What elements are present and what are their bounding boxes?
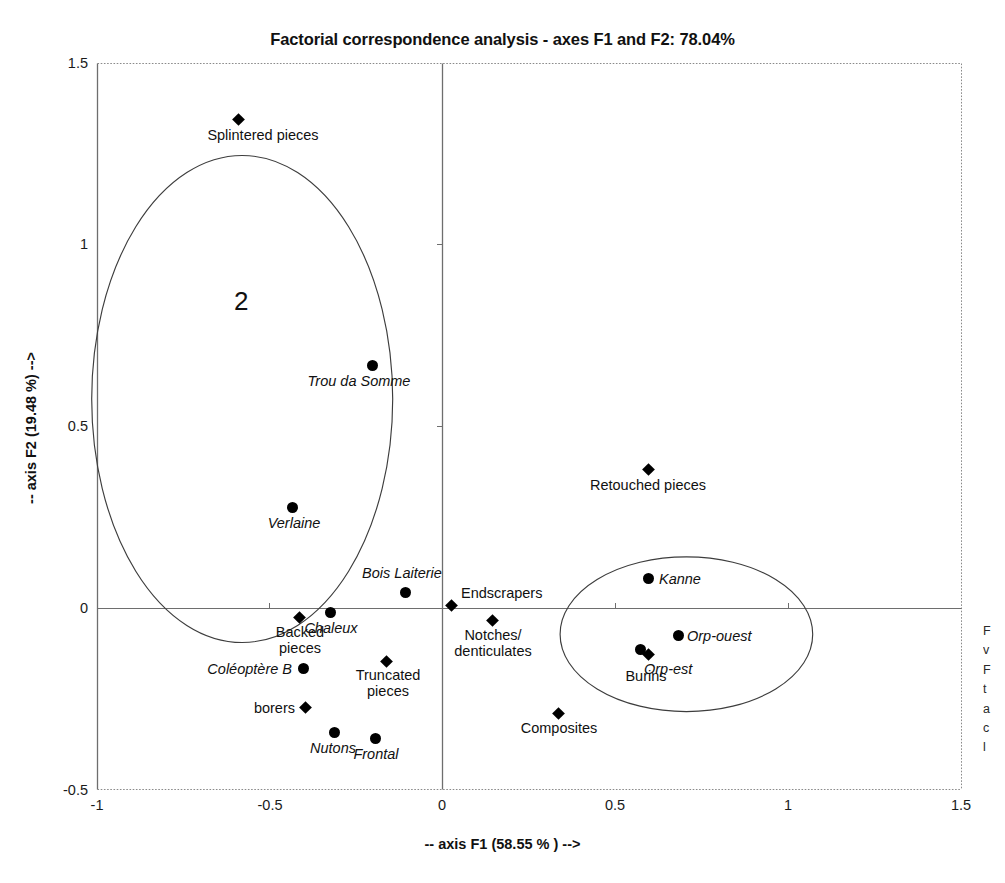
label-bois-laiterie: Bois Laiterie xyxy=(362,565,442,581)
marker-coleoptere-b[interactable] xyxy=(298,663,309,674)
label-frontal: Frontal xyxy=(353,746,398,762)
margin-caption-line-1: v xyxy=(983,641,1005,660)
cluster-2-ellipse xyxy=(92,156,393,643)
label-orp-ouest: Orp-ouest xyxy=(687,628,751,644)
label-coleoptere-b: Coléoptère B xyxy=(207,661,292,677)
xtick-label-3: 0.5 xyxy=(585,797,645,813)
ytick-label-0: 1.5 xyxy=(40,55,88,71)
xtick-label-5: 1.5 xyxy=(931,797,991,813)
ytick-label-1: 1 xyxy=(40,236,88,252)
label-trou-da-somme: Trou da Somme xyxy=(308,373,411,389)
marker-verlaine[interactable] xyxy=(287,502,298,513)
margin-caption-line-4: a xyxy=(983,700,1005,719)
margin-caption-line-3: t xyxy=(983,680,1005,699)
margin-caption-line-6: l xyxy=(983,738,1005,757)
xtick-label-0: -1 xyxy=(67,797,127,813)
label-splintered-pieces: Splintered pieces xyxy=(207,127,318,143)
label-kanne: Kanne xyxy=(659,571,701,587)
x-axis-title: -- axis F1 (58.55 % ) --> xyxy=(0,836,1005,852)
label-verlaine: Verlaine xyxy=(268,515,321,531)
label-composites: Composites xyxy=(521,720,598,736)
xtick-label-1: -0.5 xyxy=(240,797,300,813)
label-borers: borers xyxy=(254,700,295,716)
marker-kanne[interactable] xyxy=(643,573,654,584)
label-burins: Burins xyxy=(625,668,666,684)
ytick-label-3: 0 xyxy=(40,600,88,616)
plot-frame xyxy=(97,63,962,790)
xtick-label-4: 1 xyxy=(758,797,818,813)
margin-caption-line-5: c xyxy=(983,719,1005,738)
label-truncated-pieces: Truncated pieces xyxy=(356,667,421,699)
xtick-label-2: 0 xyxy=(412,797,472,813)
label-chaleux: Chaleux xyxy=(304,620,357,636)
marker-bois-laiterie[interactable] xyxy=(400,587,411,598)
label-retouched-pieces: Retouched pieces xyxy=(590,477,706,493)
plot-area: Splintered pieces Trou da Somme Verlaine… xyxy=(97,63,962,790)
ytick-label-2: 0.5 xyxy=(40,418,88,434)
cluster-number-2: 2 xyxy=(234,286,248,317)
margin-caption-line-2: F xyxy=(983,661,1005,680)
y-axis-title: -- axis F2 (19.48 %) --> xyxy=(23,278,39,578)
figure: Factorial correspondence analysis - axes… xyxy=(0,0,1005,883)
ytick-label-4: -0.5 xyxy=(40,782,88,798)
label-notches-denticulates: Notches/ denticulates xyxy=(454,627,531,659)
label-endscrapers: Endscrapers xyxy=(461,585,542,601)
label-nutons: Nutons xyxy=(310,740,356,756)
margin-caption-line-0: F xyxy=(983,622,1005,641)
margin-caption: FvFtacl xyxy=(983,622,1005,758)
page-title: Factorial correspondence analysis - axes… xyxy=(0,30,1005,49)
marker-frontal[interactable] xyxy=(370,733,381,744)
